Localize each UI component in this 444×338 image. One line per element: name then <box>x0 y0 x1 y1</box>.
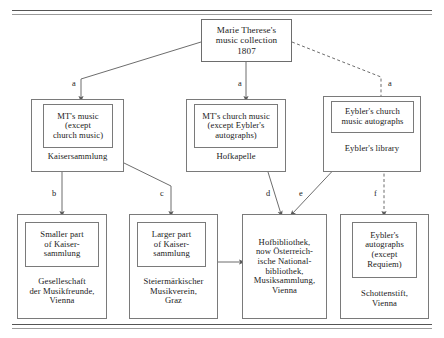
edge-label-b: b <box>52 190 56 198</box>
node-schottenstift-label: Schottenstift, Vienna <box>340 289 429 308</box>
mid3-inner-line-2: music autographs <box>342 117 404 127</box>
root-line-2: music collection <box>216 35 277 45</box>
bot4-outer-line-2: Vienna <box>340 299 429 309</box>
node-eybler-library-label: Eybler's library <box>323 144 421 154</box>
edge-label-f: f <box>374 190 377 198</box>
bot3-outer-line-6: Vienna <box>272 286 297 296</box>
bot2-outer-line-3: Graz <box>129 296 218 306</box>
node-gesellschaft-label: Geselleschaft der Musikfreunde, Vienna <box>17 277 107 306</box>
edge-label-a-center: a <box>238 80 242 88</box>
node-hofbibliothek-text: Hofbibliothek, now Österreich- ische Nat… <box>242 214 327 319</box>
node-eybler-autographs-text: Eybler's church music autographs <box>331 101 414 133</box>
bot4-inner-line-4: Requiem) <box>367 260 402 270</box>
edge-label-a-left: a <box>72 80 76 88</box>
node-steiermark-label: Steiermärkischer Musikverein, Graz <box>129 277 218 306</box>
edge-root-to-eybler-library <box>292 42 381 99</box>
node-hofkapelle-label: Hofkapelle <box>186 152 286 162</box>
mid2-inner-line-3: autographs) <box>215 131 257 141</box>
node-eybler-autographs-req-text: Eybler's autographs (except Requiem) <box>352 222 417 278</box>
node-mts-church-music-text: MT's church music (except Eybler's autog… <box>194 104 278 148</box>
edge-label-c: c <box>160 190 164 198</box>
bot1-inner-line-3: sammlung <box>44 249 81 259</box>
node-mts-music-text: MT's music (except church music) <box>43 104 113 148</box>
bot1-outer-line-3: Vienna <box>17 296 107 306</box>
edge-label-d: d <box>266 190 270 198</box>
mid1-inner-line-3: church music) <box>53 131 103 141</box>
edge-label-a-right: a <box>388 80 392 88</box>
edge-root-to-kaisersammlung <box>81 42 201 99</box>
root-line-3: 1807 <box>237 46 256 56</box>
node-kaisersammlung-label: Kaisersammlung <box>31 152 124 162</box>
diagram-canvas: a a a b c d e f g Marie Therese's music … <box>0 0 444 338</box>
bot2-inner-line-3: sammlung <box>153 249 190 259</box>
root-line-1: Marie Therese's <box>217 25 276 35</box>
edge-label-e: e <box>299 190 303 198</box>
node-smaller-part-text: Smaller part of Kaiser- sammlung <box>25 222 99 267</box>
node-larger-part-text: Larger part of Kaiser- sammlung <box>137 222 206 267</box>
node-marie-therese-collection-text: Marie Therese's music collection 1807 <box>201 19 292 62</box>
